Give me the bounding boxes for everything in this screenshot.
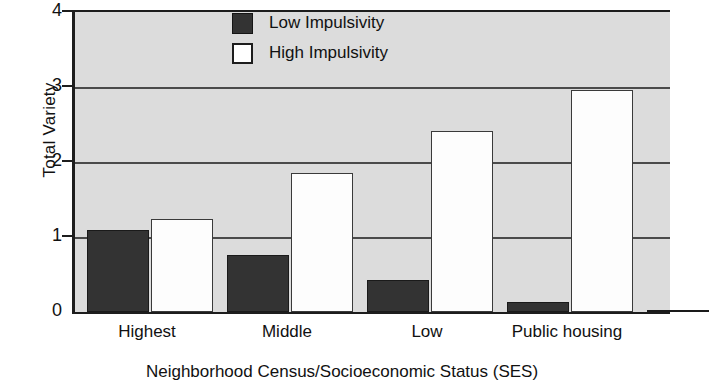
legend-swatch-icon-low-impulsivity <box>232 13 253 34</box>
legend-swatch-icon-high-impulsivity <box>232 43 253 64</box>
bar-high-impulsivity-low <box>431 131 493 312</box>
y-tick-mark-3 <box>62 85 72 87</box>
y-tick-label-3: 3 <box>36 76 62 94</box>
legend-label-low-impulsivity: Low Impulsivity <box>269 13 384 33</box>
y-tick-mark-1 <box>62 235 72 237</box>
y-tick-label-2: 2 <box>36 151 62 169</box>
bar-low-impulsivity-public-housing <box>507 302 569 312</box>
y-tick-label-1: 1 <box>36 226 62 244</box>
bar-low-impulsivity-highest <box>87 230 149 312</box>
legend-item-low-impulsivity: Low Impulsivity <box>232 8 482 38</box>
y-tick-mark-2 <box>62 160 72 162</box>
bar-clipped-partial <box>647 310 709 312</box>
bar-high-impulsivity-highest <box>151 219 213 312</box>
y-tick-label-0: 0 <box>36 301 62 319</box>
bar-low-impulsivity-middle <box>227 255 289 312</box>
bar-high-impulsivity-public-housing <box>571 90 633 312</box>
x-axis-ticks: HighestMiddleLowPublic housing <box>72 322 667 350</box>
x-tick-label-public-housing: Public housing <box>464 322 670 342</box>
legend-item-high-impulsivity: High Impulsivity <box>232 38 482 68</box>
legend-label-high-impulsivity: High Impulsivity <box>269 43 388 63</box>
y-axis-ticks: 4 3 2 1 0 <box>28 0 62 320</box>
legend: Low Impulsivity High Impulsivity <box>232 8 482 68</box>
y-tick-label-4: 4 <box>36 1 62 19</box>
y-tick-mark-4 <box>62 10 72 12</box>
bar-low-impulsivity-low <box>367 280 429 312</box>
gridline-3 <box>75 87 670 89</box>
x-axis-title: Neighborhood Census/Socioeconomic Status… <box>72 362 612 382</box>
bar-high-impulsivity-middle <box>291 173 353 312</box>
